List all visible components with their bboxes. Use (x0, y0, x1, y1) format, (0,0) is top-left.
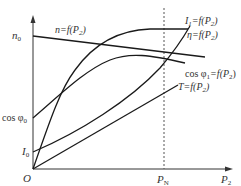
origin-label: O (23, 172, 31, 184)
x-axis-arrow-icon (225, 167, 233, 172)
pn-label: PN (156, 173, 169, 186)
torque-curve (33, 85, 178, 169)
i0-label: I0 (21, 145, 30, 159)
cos-phi0-label: cos φ0 (2, 112, 28, 125)
y-axis-arrow-icon (31, 15, 36, 23)
speed-curve (33, 36, 205, 57)
characteristics-diagram: n0 cos φ0 I0 O PN P2 n=f(P2) I1=f(P2) η=… (0, 0, 241, 186)
power-factor-curve-label: cos φ1=f(P2) (185, 68, 236, 81)
efficiency-curve (33, 29, 188, 169)
n0-label: n0 (12, 29, 22, 43)
torque-curve-label: T=f(P2) (178, 81, 210, 94)
efficiency-curve-label: η=f(P2) (187, 29, 218, 42)
speed-curve-label: n=f(P2) (55, 24, 86, 37)
current-curve (33, 26, 190, 152)
current-curve-label: I1=f(P2) (184, 15, 218, 28)
p2-axis-label: P2 (220, 173, 232, 186)
